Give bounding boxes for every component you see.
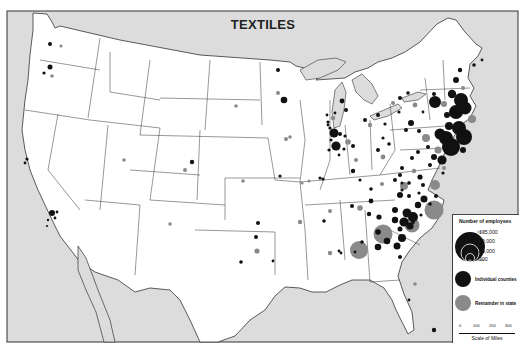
county-symbol [397,110,400,113]
us-map [0,0,526,347]
county-symbol [460,147,466,153]
county-symbol [410,156,414,160]
map-title: TEXTILES [0,17,526,32]
state-remainder-symbol [391,101,395,105]
county-symbol [398,227,403,232]
state-remainder-symbol [425,201,444,220]
county-symbol [358,178,361,181]
county-symbol [406,91,410,95]
county-symbol [48,65,53,70]
county-symbol [459,102,472,115]
state-remainder-symbol [288,135,292,139]
county-symbol [190,160,194,164]
county-symbol [444,112,450,118]
county-symbol [328,126,331,129]
county-symbol [47,219,49,221]
county-symbol [398,255,402,259]
size-label-10000: 10,000 [479,248,495,254]
county-symbol [416,150,420,154]
size-label-500: 500 [479,256,488,262]
state-remainder-symbol [468,115,476,123]
state-remainder-symbol [345,139,351,145]
county-symbol [437,155,446,164]
county-symbol [415,202,421,208]
county-symbol [278,174,281,177]
county-symbol [458,68,462,72]
state-remainder-symbol [183,168,187,172]
county-symbol [340,252,343,255]
county-symbol [408,299,411,302]
county-symbol [398,96,402,100]
county-symbol [256,221,260,225]
county-symbol [411,220,415,224]
county-symbol [398,173,402,177]
state-remainder-symbol [381,155,386,160]
state-remainder-symbol [234,104,238,108]
state-remainder-symbol [331,116,335,120]
state-remainder-symbol [412,169,416,173]
state-remainder-symbol [413,103,418,108]
county-symbol [322,219,326,223]
county-symbol [54,217,57,220]
county-symbol [448,90,456,98]
county-symbol [383,122,386,125]
county-symbol [334,112,337,115]
county-symbol [419,213,422,216]
county-symbol [338,132,342,136]
county-symbol [281,97,288,104]
county-symbol [363,118,367,122]
county-symbol [42,71,45,74]
county-symbol [403,209,412,218]
state-remainder-symbol [284,137,288,141]
county-symbol [369,199,374,204]
size-label-50000: 50,000 [479,238,495,244]
county-symbol [394,243,401,250]
state-remainder-symbol [354,158,358,162]
county-symbol [400,181,403,184]
county-symbol [400,188,403,191]
county-symbol [428,163,432,167]
state-remainder-symbol [241,179,245,183]
county-symbol [481,59,484,62]
legend-heading: Number of employees [459,218,511,224]
legend-item-counties: Individual counties [455,271,517,287]
state-remainder-symbol [368,123,372,127]
state-remainder-symbol [430,180,440,190]
county-symbol [376,113,380,117]
size-label-135000: 135,000 [479,229,498,235]
county-symbol [318,176,321,179]
county-symbol [431,154,437,160]
county-symbol [276,68,280,72]
county-symbol [393,178,397,182]
county-symbol [407,194,411,198]
county-symbol [25,157,28,160]
county-symbol [272,260,275,263]
county-symbol [354,251,357,254]
state-remainder-symbol [276,91,280,95]
county-symbol [376,214,381,219]
county-symbol [342,147,345,150]
state-remainder-symbol [435,147,442,154]
state-remainder-symbol [422,134,430,142]
legend-item-remainder: Remainder in state [455,295,516,311]
county-symbol [417,129,421,133]
county-symbol [367,212,371,216]
county-symbol [435,129,446,140]
county-symbol [408,120,414,126]
county-symbol [350,204,354,208]
county-symbol [360,240,364,244]
county-symbol [453,77,459,83]
county-symbol [343,134,346,137]
county-symbol [398,234,406,242]
county-symbol [445,122,453,130]
county-symbol [24,162,27,165]
county-symbol [46,225,48,227]
state-remainder-symbol [50,74,54,78]
county-symbol [338,154,341,157]
state-remainder-symbol [328,251,332,255]
state-remainder-symbol [413,282,417,286]
county-symbol [417,174,422,179]
county-symbol [381,136,384,139]
county-symbol [56,211,59,214]
county-symbol [432,92,436,96]
